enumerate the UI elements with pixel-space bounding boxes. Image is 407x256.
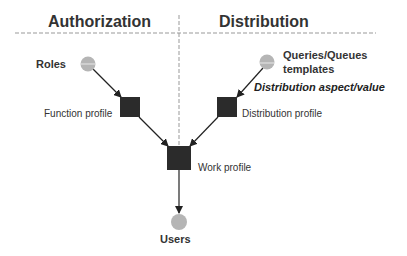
- work-profile-label: Work profile: [198, 163, 251, 173]
- queries-label-line1: Queries/Queues: [283, 50, 367, 61]
- function-profile-node-icon: [120, 97, 140, 117]
- diagram-canvas: [0, 0, 407, 256]
- work-profile-node-icon: [167, 146, 191, 170]
- edge-function-to-work: [139, 117, 168, 146]
- distribution-profile-label: Distribution profile: [242, 109, 322, 119]
- header-authorization: Authorization: [48, 14, 151, 30]
- users-label: Users: [160, 234, 191, 245]
- distribution-profile-node-icon: [217, 97, 237, 117]
- edge-distribution-to-work: [190, 117, 218, 146]
- users-node-icon: [171, 214, 187, 230]
- header-distribution: Distribution: [219, 14, 309, 30]
- queries-node-icon: [260, 55, 275, 70]
- queries-label-line2: templates: [283, 64, 334, 75]
- edge-roles-to-function: [93, 69, 121, 97]
- roles-label: Roles: [36, 59, 66, 70]
- function-profile-label: Function profile: [44, 109, 112, 119]
- distribution-aspect-annotation: Distribution aspect/value: [254, 82, 385, 93]
